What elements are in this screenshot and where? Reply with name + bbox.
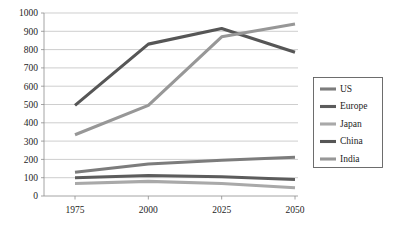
y-tick-label: 900 [24, 27, 39, 37]
legend-label-europe: Europe [340, 101, 367, 111]
y-tick-label: 400 [24, 118, 39, 128]
y-tick-label: 1000 [19, 8, 38, 18]
legend: USEuropeJapanChinaIndia [314, 78, 383, 168]
legend-label-us: US [340, 84, 352, 94]
legend-label-india: India [340, 154, 360, 164]
x-tick-label: 2000 [139, 205, 158, 215]
y-tick-label: 100 [24, 173, 39, 183]
legend-label-japan: Japan [340, 119, 362, 129]
x-tick-label: 2050 [286, 205, 305, 215]
y-tick-label: 600 [24, 82, 39, 92]
y-tick-label: 0 [33, 191, 38, 201]
y-tick-label: 200 [24, 155, 39, 165]
y-tick-label: 700 [24, 63, 39, 73]
x-tick-label: 1975 [66, 205, 85, 215]
line-chart: 01002003004005006007008009001000 1975200… [0, 0, 400, 241]
legend-label-china: China [340, 136, 363, 146]
y-tick-label: 300 [24, 137, 39, 147]
y-tick-label: 500 [24, 100, 39, 110]
chart-canvas: 01002003004005006007008009001000 1975200… [0, 0, 400, 241]
y-tick-label: 800 [24, 45, 39, 55]
x-tick-label: 2025 [212, 205, 231, 215]
